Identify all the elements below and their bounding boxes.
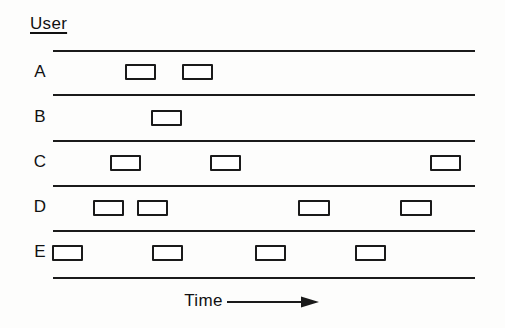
activity-burst-c-3	[430, 155, 461, 171]
lane-rule-5	[53, 277, 475, 279]
lane-rule-0	[53, 50, 475, 52]
lane-label-d: D	[31, 198, 49, 215]
lane-rule-4	[53, 230, 475, 232]
activity-burst-e-1	[52, 245, 83, 261]
lane-rule-2	[53, 140, 475, 142]
activity-burst-d-3	[298, 200, 330, 216]
lane-label-e: E	[31, 243, 49, 260]
activity-burst-a-2	[182, 64, 213, 80]
activity-burst-d-2	[137, 200, 168, 216]
lane-rule-1	[53, 94, 475, 96]
activity-burst-c-2	[210, 155, 241, 171]
activity-burst-c-1	[110, 155, 141, 171]
activity-burst-d-1	[93, 200, 124, 216]
lane-label-a: A	[31, 63, 49, 80]
activity-burst-e-4	[355, 245, 386, 261]
time-axis-label: Time	[184, 291, 222, 311]
lane-rule-3	[53, 185, 475, 187]
page-title: User	[30, 14, 67, 34]
user-activity-timeline-figure: User ABCDE Time	[0, 0, 505, 328]
lane-label-c: C	[31, 153, 49, 170]
activity-burst-e-3	[255, 245, 286, 261]
lane-label-b: B	[31, 108, 49, 125]
activity-burst-a-1	[125, 64, 156, 80]
arrow-right-icon	[225, 292, 321, 310]
activity-burst-d-4	[400, 200, 432, 216]
activity-burst-b-1	[151, 110, 182, 126]
time-axis-caption: Time	[0, 291, 505, 311]
activity-burst-e-2	[152, 245, 183, 261]
